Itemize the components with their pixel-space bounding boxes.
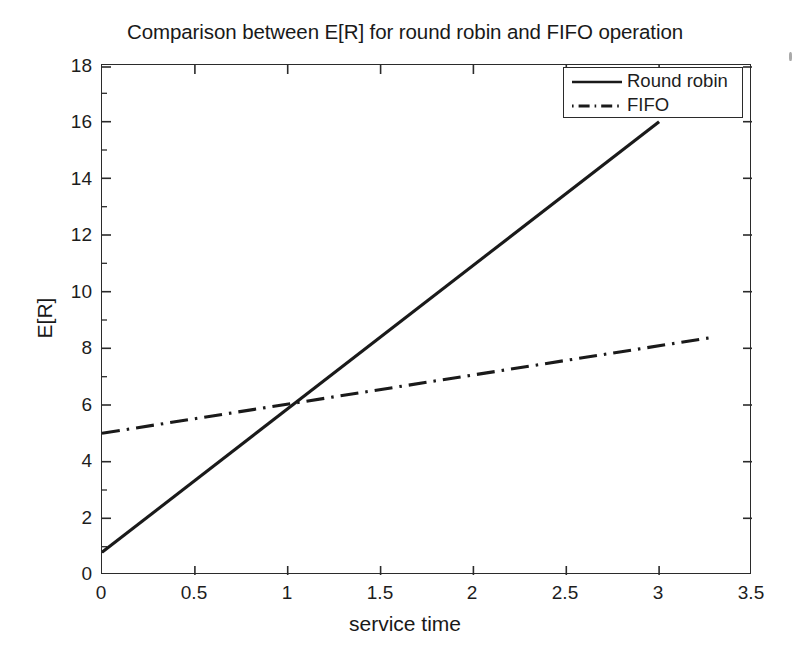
legend-sample-dashdot-icon — [571, 95, 623, 117]
x-tick-label: 0.5 — [159, 583, 229, 602]
legend-sample-solid-icon — [571, 71, 623, 93]
x-tick-label: 3 — [623, 583, 693, 602]
x-tick-label: 3.5 — [716, 583, 786, 602]
y-tick-label: 16 — [50, 112, 92, 131]
x-axis-label: service time — [0, 612, 810, 636]
x-tick-label: 1.5 — [345, 583, 415, 602]
series-line-round-robin — [102, 122, 659, 553]
chart-legend[interactable]: Round robin FIFO — [563, 67, 743, 118]
y-tick-label: 6 — [50, 395, 92, 414]
series-line-fifo — [102, 337, 715, 433]
plot-canvas — [102, 65, 752, 575]
plot-area — [101, 64, 751, 574]
y-tick-label: 8 — [50, 338, 92, 357]
chart-page: Comparison between E[R] for round robin … — [0, 0, 810, 651]
x-tick-label: 2.5 — [530, 583, 600, 602]
x-tick-label: 2 — [437, 583, 507, 602]
x-axis-tick-labels: 0 0.5 1 1.5 2 2.5 3 3.5 — [0, 583, 810, 613]
y-axis-label: E[R] — [33, 298, 57, 339]
y-tick-label: 18 — [50, 56, 92, 75]
x-tick-label: 0 — [66, 583, 136, 602]
legend-item-fifo[interactable]: FIFO — [564, 93, 744, 118]
y-tick-label: 2 — [50, 508, 92, 527]
y-tick-label: 14 — [50, 169, 92, 188]
y-major-ticks — [102, 67, 111, 518]
x-major-ticks — [195, 566, 659, 575]
chart-title: Comparison between E[R] for round robin … — [0, 20, 810, 44]
y-tick-label: 4 — [50, 451, 92, 470]
scan-artifact-mark — [789, 52, 792, 61]
legend-label: FIFO — [627, 96, 669, 115]
x-tick-label: 1 — [252, 583, 322, 602]
y-tick-label: 0 — [50, 564, 92, 583]
y-major-ticks-right — [743, 67, 752, 518]
y-minor-ticks — [102, 93, 107, 546]
legend-item-round-robin[interactable]: Round robin — [564, 69, 744, 94]
y-tick-label: 12 — [50, 225, 92, 244]
legend-label: Round robin — [627, 72, 728, 91]
